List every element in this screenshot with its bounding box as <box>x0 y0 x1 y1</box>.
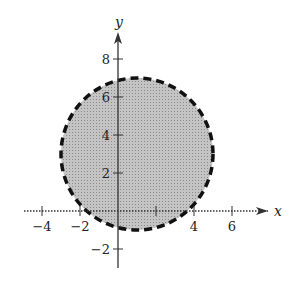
x-tick-label: −4 <box>32 219 51 234</box>
y-tick-label: 4 <box>102 128 110 143</box>
shaded-disk-region <box>61 78 213 230</box>
x-tick-label: 4 <box>190 219 198 234</box>
x-tick-label: 6 <box>228 219 236 234</box>
coordinate-plane: −4−2468642−2 x y <box>0 0 300 282</box>
y-tick-label: 2 <box>102 166 110 181</box>
y-axis-label: y <box>114 14 124 30</box>
y-tick-label: 6 <box>102 90 110 105</box>
x-axis-arrow-icon <box>256 207 268 215</box>
graph-figure: −4−2468642−2 x y <box>0 0 300 282</box>
x-tick-label: −2 <box>70 219 89 234</box>
y-tick-label: 8 <box>102 52 110 67</box>
x-axis-label: x <box>274 203 282 219</box>
y-tick-label: −2 <box>91 242 110 257</box>
